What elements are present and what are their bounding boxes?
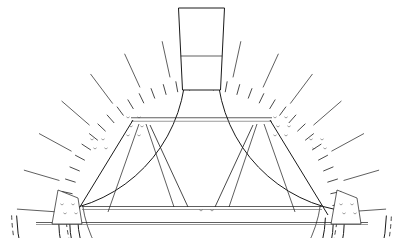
lagging-joint	[82, 144, 91, 150]
bolt-mark	[323, 148, 326, 149]
voussoir-inner-arc-right	[217, 75, 349, 212]
bolt-mark	[90, 139, 93, 140]
left-shoe	[52, 190, 82, 224]
lagging-joint	[117, 107, 124, 116]
rib-dashed-arc-path	[66, 215, 338, 238]
bolt-mark	[276, 126, 279, 127]
voussoir-joint	[263, 54, 278, 88]
lagging-joint	[237, 84, 240, 95]
bolt-mark	[210, 210, 213, 211]
voussoir-joint	[290, 74, 312, 104]
right-rafter	[270, 120, 328, 215]
lagging-joint	[75, 155, 85, 160]
voussoir-joint	[17, 209, 54, 212]
lagging-joint	[289, 115, 296, 123]
voussoir-joint	[62, 101, 90, 125]
left-king-post	[150, 125, 188, 207]
bolt-mark	[284, 135, 287, 136]
lagging-joint	[176, 81, 178, 92]
lagging-joint	[297, 124, 305, 132]
keystone-outline	[179, 8, 225, 90]
bolt-mark	[104, 148, 107, 149]
keystone-block	[179, 8, 225, 90]
lagging-joint	[107, 115, 114, 123]
lagging-joint	[270, 100, 276, 109]
lagging-joint	[323, 167, 333, 171]
bolt-mark	[284, 117, 287, 118]
bolt-mark	[126, 135, 129, 136]
left-outer-strut	[108, 124, 139, 212]
lagging-joint	[151, 88, 155, 98]
voussoir-joint	[24, 170, 60, 180]
bolt-mark	[126, 117, 129, 118]
voussoir-joint	[331, 134, 363, 152]
bolt-mark	[287, 126, 290, 127]
voussoir-inner-arc-left	[54, 75, 186, 212]
lagging-joint	[139, 93, 144, 103]
bolt-mark	[101, 139, 104, 140]
lagging-joint	[163, 84, 166, 95]
bolt-mark	[137, 135, 140, 136]
arch-drawing-canvas	[0, 0, 403, 238]
rib-dashed-arc	[66, 215, 338, 238]
bolt-mark	[273, 117, 276, 118]
lagging-joint	[65, 179, 75, 182]
voussoir-joint	[125, 54, 140, 88]
lagging-joint	[128, 100, 134, 109]
bolt-mark	[93, 148, 96, 149]
bolt-mark	[273, 135, 276, 136]
voussoir-joint	[39, 134, 71, 152]
lagging-joint	[248, 88, 252, 98]
truss-outer-arc-path	[83, 205, 321, 238]
right-inner-strut	[229, 124, 257, 207]
left-rafter	[75, 120, 133, 215]
right-outer-strut	[264, 124, 295, 212]
voussoir-joint	[313, 101, 341, 125]
truss-frame	[36, 118, 368, 225]
bolt-mark	[320, 139, 323, 140]
lagging-joint	[259, 93, 264, 103]
lagging-joint	[225, 81, 227, 92]
lagging-joint	[318, 155, 328, 160]
lagging-joint	[70, 167, 80, 171]
right-king-post	[215, 125, 253, 207]
left-inner-strut	[146, 124, 174, 207]
voussoir-joint	[91, 74, 113, 104]
voussoir-joint	[344, 170, 380, 180]
lagging-joint	[98, 124, 106, 132]
right-shoe	[331, 190, 361, 224]
bolt-mark	[309, 139, 312, 140]
intrados-arc	[78, 205, 326, 238]
voussoir-joint	[233, 41, 241, 77]
lagging-joint	[327, 179, 337, 182]
lagging-joint	[280, 107, 287, 116]
voussoir-joint	[162, 41, 170, 77]
intrados-arc-path	[78, 218, 326, 238]
arch-centering-figure	[0, 0, 403, 238]
bolt-mark	[140, 126, 143, 127]
lagging-segments	[59, 79, 345, 217]
bolt-mark	[199, 210, 202, 211]
